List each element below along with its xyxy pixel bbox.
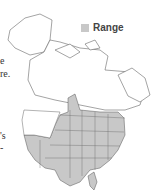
range-map: [0, 0, 159, 194]
